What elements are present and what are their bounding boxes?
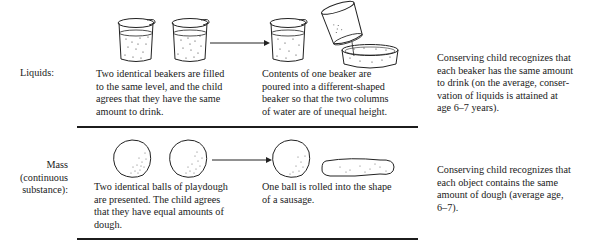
right-arrow-icon [210,38,270,48]
dough-ball-icon [167,138,209,180]
beaker-icon [170,17,214,65]
row-divider [77,238,418,240]
initial-description-mass: Two identical balls of playdough are pre… [94,181,269,231]
dough-ball-icon [111,138,153,180]
conserving-response-liquids: Conserving child recognizes that each be… [437,52,600,115]
transformation-description-liquids: Contents of one beaker are poured into a… [262,68,432,118]
row-label-mass: Mass (continuous substance): [6,159,68,197]
beaker-icon [268,17,312,65]
right-arrow-icon [212,155,272,165]
dough-sausage-icon [320,157,396,179]
row-divider [77,126,418,128]
initial-description-liquids: Two identical beakers are filled to the … [96,68,266,118]
pouring-beaker-icon [318,2,368,50]
beaker-icon [116,17,160,65]
row-label-liquids: Liquids: [20,67,70,80]
conserving-response-mass: Conserving child recognizes that each ob… [437,164,600,214]
dough-ball-icon [270,138,312,180]
transformation-description-mass: One ball is rolled into the shape of a s… [262,181,432,206]
